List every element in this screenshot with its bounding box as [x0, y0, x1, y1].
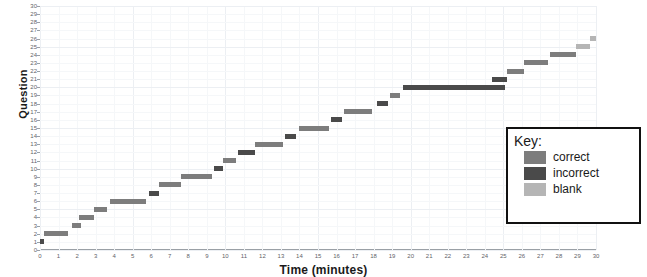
x-axis-tick-label: 22 — [444, 253, 451, 259]
x-axis-tick-label: 8 — [187, 253, 190, 259]
y-axis-tick-mark — [37, 193, 40, 194]
gridline-horizontal — [40, 55, 596, 56]
y-axis-tick-mark — [37, 95, 40, 96]
legend-swatch-icon — [524, 183, 546, 196]
x-axis-tick-label: 30 — [593, 253, 600, 259]
y-axis-tick-mark — [37, 144, 40, 145]
bar-segment — [524, 60, 548, 65]
x-axis-tick-label: 19 — [389, 253, 396, 259]
legend-swatch-icon — [524, 151, 546, 164]
gridline-horizontal — [40, 47, 596, 48]
y-axis-tick-mark — [37, 217, 40, 218]
x-axis-tick-label: 27 — [537, 253, 544, 259]
y-axis-tick-mark — [37, 169, 40, 170]
bar-segment — [377, 101, 388, 106]
legend-label: blank — [553, 183, 582, 196]
bar-segment — [344, 109, 372, 114]
y-axis-tick-label: 23 — [30, 60, 37, 66]
gridline-horizontal — [40, 104, 596, 105]
x-axis-tick-label: 10 — [222, 253, 229, 259]
bar-segment — [214, 166, 223, 171]
x-axis-tick-label: 5 — [131, 253, 134, 259]
y-axis-tick-mark — [37, 6, 40, 7]
y-axis-tick-mark — [37, 161, 40, 162]
y-axis-tick-label: 15 — [30, 125, 37, 131]
bar-segment — [390, 93, 399, 98]
x-axis-tick-label: 23 — [463, 253, 470, 259]
gridline-horizontal — [40, 250, 596, 251]
y-axis-tick-mark — [37, 22, 40, 23]
y-axis-tick-label: 19 — [30, 92, 37, 98]
y-axis-tick-label: 13 — [30, 141, 37, 147]
x-axis-tick-label: 0 — [38, 253, 41, 259]
legend-entries: correctincorrectblank — [514, 151, 633, 196]
bar-segment — [403, 85, 505, 90]
bar-segment — [72, 223, 81, 228]
y-axis-tick-mark — [37, 39, 40, 40]
gridline-horizontal — [40, 112, 596, 113]
gridline-horizontal — [40, 39, 596, 40]
bar-segment — [40, 239, 44, 244]
x-axis-tick-label: 7 — [168, 253, 171, 259]
x-axis-tick-label: 11 — [241, 253, 247, 259]
x-axis-tick-label: 2 — [75, 253, 78, 259]
y-axis-tick-label: 29 — [30, 11, 37, 17]
bar-segment — [576, 44, 591, 49]
bar-segment — [550, 52, 576, 57]
legend-entry: correct — [524, 151, 633, 164]
y-axis-tick-label: 12 — [30, 149, 37, 155]
y-axis-tick-label: 26 — [30, 36, 37, 42]
bar-segment — [79, 215, 94, 220]
gridline-horizontal — [40, 14, 596, 15]
bar-segment — [110, 199, 145, 204]
y-axis-tick-mark — [37, 79, 40, 80]
y-axis-tick-label: 18 — [30, 101, 37, 107]
bar-segment — [94, 207, 107, 212]
y-axis-tick-mark — [37, 177, 40, 178]
x-axis-tick-label: 15 — [315, 253, 322, 259]
legend-box: Key: correctincorrectblank — [506, 127, 641, 224]
gridline-horizontal — [40, 22, 596, 23]
gridline-horizontal — [40, 87, 596, 88]
legend-label: correct — [553, 151, 590, 164]
bar-segment — [507, 69, 524, 74]
y-axis-tick-mark — [37, 226, 40, 227]
x-axis-tick-label: 28 — [556, 253, 563, 259]
x-axis-tick-label: 13 — [278, 253, 285, 259]
gridline-horizontal — [40, 63, 596, 64]
y-axis-tick-mark — [37, 201, 40, 202]
y-axis-tick-label: 30 — [30, 3, 37, 9]
y-axis-tick-label: 17 — [30, 109, 37, 115]
y-axis-tick-label: 22 — [30, 68, 37, 74]
gridline-horizontal — [40, 30, 596, 31]
bar-segment — [331, 117, 342, 122]
x-axis-tick-label: 9 — [205, 253, 208, 259]
bar-segment — [44, 231, 68, 236]
y-axis-tick-label: 25 — [30, 44, 37, 50]
y-axis-tick-label: 24 — [30, 52, 37, 58]
bar-segment — [223, 158, 236, 163]
x-axis-tick-label: 14 — [296, 253, 303, 259]
y-axis-tick-mark — [37, 234, 40, 235]
legend-title: Key: — [514, 133, 633, 149]
legend-swatch-icon — [524, 167, 546, 180]
y-axis-tick-mark — [37, 63, 40, 64]
x-axis-tick-label: 29 — [574, 253, 581, 259]
legend-entry: incorrect — [524, 167, 633, 180]
x-axis-tick-label: 4 — [112, 253, 115, 259]
y-axis-tick-mark — [37, 152, 40, 153]
y-axis-title: Question — [17, 49, 29, 139]
bar-segment — [492, 77, 507, 82]
y-axis-tick-mark — [37, 47, 40, 48]
y-axis-tick-mark — [37, 87, 40, 88]
y-axis-tick-label: 28 — [30, 19, 37, 25]
y-axis-tick-label: 27 — [30, 27, 37, 33]
x-axis-tick-label: 24 — [481, 253, 488, 259]
x-axis-tick-label: 12 — [259, 253, 266, 259]
bar-segment — [238, 150, 255, 155]
bar-segment — [149, 191, 158, 196]
x-axis-tick-label: 1 — [57, 253, 60, 259]
y-axis-tick-label: 21 — [30, 76, 37, 82]
y-axis-tick-mark — [37, 30, 40, 31]
gridline-horizontal — [40, 95, 596, 96]
